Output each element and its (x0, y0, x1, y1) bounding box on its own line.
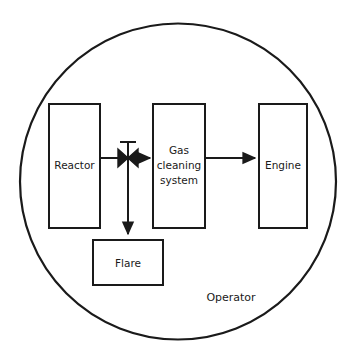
gas-cleaning-system-label-line-3: system (160, 174, 198, 186)
operator-boundary-label: Operator (206, 291, 256, 304)
gas-cleaning-system-label-line-1: Gas (169, 144, 189, 156)
node-gas-cleaning-system[interactable]: Gas cleaning system (153, 104, 205, 228)
node-reactor[interactable]: Reactor (49, 104, 100, 228)
valve-right-triangle (128, 149, 138, 167)
reactor-label: Reactor (54, 159, 95, 171)
node-engine[interactable]: Engine (259, 104, 307, 228)
node-flare[interactable]: Flare (93, 240, 163, 285)
process-flow-diagram: Reactor Gas cleaning system Engine Flare… (0, 0, 353, 364)
flare-label: Flare (115, 257, 141, 269)
valve-left-triangle (118, 149, 128, 167)
diagram-canvas: Reactor Gas cleaning system Engine Flare… (0, 0, 353, 364)
gas-cleaning-system-label-line-2: cleaning (157, 159, 201, 171)
engine-label: Engine (265, 159, 301, 171)
